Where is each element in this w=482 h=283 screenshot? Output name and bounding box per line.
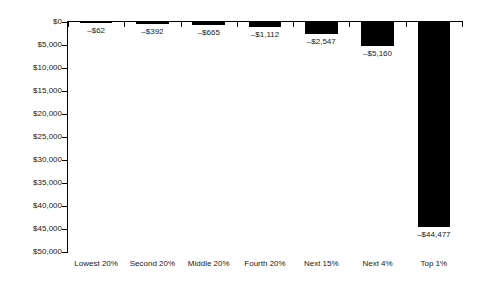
bar-value-label: –$44,477 bbox=[406, 230, 462, 239]
bar[interactable] bbox=[249, 22, 282, 27]
bar-value-label: –$5,160 bbox=[349, 49, 405, 58]
bar-value-label: –$1,112 bbox=[237, 30, 293, 39]
x-axis-category-label: Lowest 20% bbox=[68, 259, 124, 268]
x-axis-tick-mark bbox=[181, 22, 182, 27]
bar-value-label: –$392 bbox=[124, 27, 180, 36]
x-axis-tick-mark bbox=[462, 22, 463, 27]
y-axis-tick-label: $0 bbox=[0, 17, 67, 26]
y-axis-tick-label: $25,000 bbox=[0, 132, 67, 141]
bar-value-label: –$2,547 bbox=[293, 37, 349, 46]
bar[interactable] bbox=[361, 22, 394, 46]
y-axis-tick-label: $45,000 bbox=[0, 224, 67, 233]
x-axis-category-label: Next 4% bbox=[349, 259, 405, 268]
bar[interactable] bbox=[418, 22, 451, 227]
y-axis-tick-label: $50,000 bbox=[0, 247, 67, 256]
x-axis-tick-mark bbox=[406, 22, 407, 27]
bar-chart: $0$5,000$10,000$15,000$20,000$25,000$30,… bbox=[0, 0, 482, 283]
x-axis-tick-mark bbox=[349, 22, 350, 27]
bar[interactable] bbox=[192, 22, 225, 25]
x-axis-tick-mark bbox=[237, 22, 238, 27]
bar[interactable] bbox=[80, 22, 113, 23]
x-axis-category-label: Next 15% bbox=[293, 259, 349, 268]
y-axis-tick-label: $20,000 bbox=[0, 109, 67, 118]
y-axis-tick-label: $30,000 bbox=[0, 155, 67, 164]
bar[interactable] bbox=[136, 22, 169, 24]
y-axis-tick-label: $10,000 bbox=[0, 63, 67, 72]
x-axis-category-label: Fourth 20% bbox=[237, 259, 293, 268]
y-axis-tick-label: $40,000 bbox=[0, 201, 67, 210]
x-axis-category-label: Second 20% bbox=[124, 259, 180, 268]
y-axis-tick-label: $15,000 bbox=[0, 86, 67, 95]
x-axis-tick-mark bbox=[293, 22, 294, 27]
y-axis-tick-label: $35,000 bbox=[0, 178, 67, 187]
bar[interactable] bbox=[305, 22, 338, 34]
y-axis-tick-label: $5,000 bbox=[0, 40, 67, 49]
bar-value-label: –$62 bbox=[68, 26, 124, 35]
bar-value-label: –$665 bbox=[181, 28, 237, 37]
x-axis-category-label: Middle 20% bbox=[181, 259, 237, 268]
x-axis-category-label: Top 1% bbox=[406, 259, 462, 268]
